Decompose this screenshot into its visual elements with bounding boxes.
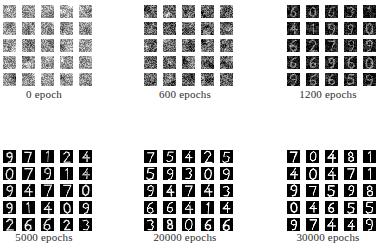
sample-canvas [22, 167, 35, 180]
sample-image [41, 218, 54, 231]
sample-canvas [287, 5, 300, 18]
sample-canvas [22, 218, 35, 231]
panel-caption-30000-epochs: 30000 epochs [268, 231, 384, 244]
sample-image [344, 73, 357, 86]
sample-image [287, 22, 300, 35]
sample-canvas [3, 5, 16, 18]
sample-image [287, 39, 300, 52]
sample-canvas [182, 150, 195, 163]
sample-canvas [41, 218, 54, 231]
sample-canvas [144, 167, 157, 180]
sample-canvas [306, 218, 319, 231]
sample-image [79, 201, 92, 214]
sample-image [144, 184, 157, 197]
sample-canvas [220, 5, 233, 18]
sample-canvas [60, 39, 73, 52]
sample-canvas [201, 73, 214, 86]
sample-canvas [201, 56, 214, 69]
sample-canvas [306, 184, 319, 197]
sample-canvas [182, 218, 195, 231]
sample-canvas [22, 184, 35, 197]
sample-image [79, 39, 92, 52]
sample-canvas [325, 167, 338, 180]
sample-canvas [325, 39, 338, 52]
sample-image [60, 201, 73, 214]
sample-canvas [344, 5, 357, 18]
sample-canvas [220, 218, 233, 231]
sample-canvas [182, 73, 195, 86]
sample-panel-0-epoch [3, 5, 92, 86]
sample-canvas [60, 56, 73, 69]
sample-image [306, 56, 319, 69]
sample-canvas [220, 184, 233, 197]
sample-canvas [144, 201, 157, 214]
sample-image [344, 184, 357, 197]
sample-canvas [41, 22, 54, 35]
sample-image [144, 167, 157, 180]
sample-canvas [325, 56, 338, 69]
sample-image [41, 39, 54, 52]
sample-image [22, 201, 35, 214]
sample-canvas [287, 150, 300, 163]
sample-canvas [287, 167, 300, 180]
sample-image [344, 22, 357, 35]
sample-image [344, 150, 357, 163]
sample-image [287, 218, 300, 231]
sample-canvas [163, 5, 176, 18]
sample-image [287, 184, 300, 197]
sample-image [60, 56, 73, 69]
sample-image [22, 167, 35, 180]
sample-canvas [363, 39, 376, 52]
sample-image [201, 39, 214, 52]
sample-image [287, 201, 300, 214]
sample-image [344, 5, 357, 18]
sample-image [60, 73, 73, 86]
sample-canvas [79, 73, 92, 86]
sample-canvas [22, 5, 35, 18]
sample-image [60, 184, 73, 197]
sample-canvas [144, 5, 157, 18]
sample-canvas [41, 201, 54, 214]
sample-panel-600-epochs [144, 5, 233, 86]
sample-image [60, 5, 73, 18]
sample-image [79, 184, 92, 197]
sample-canvas [287, 56, 300, 69]
sample-canvas [344, 167, 357, 180]
sample-canvas [3, 167, 16, 180]
sample-canvas [41, 56, 54, 69]
sample-canvas [3, 39, 16, 52]
sample-image [163, 150, 176, 163]
sample-image [201, 56, 214, 69]
sample-canvas [182, 167, 195, 180]
sample-canvas [363, 201, 376, 214]
sample-canvas [201, 22, 214, 35]
sample-image [220, 22, 233, 35]
sample-canvas [201, 184, 214, 197]
sample-image [201, 5, 214, 18]
sample-canvas [60, 73, 73, 86]
sample-image [22, 56, 35, 69]
sample-image [144, 150, 157, 163]
sample-image [220, 56, 233, 69]
sample-grid [144, 150, 233, 231]
sample-image [3, 39, 16, 52]
panel-caption-600-epochs: 600 epochs [125, 88, 245, 101]
sample-image [344, 201, 357, 214]
sample-image [144, 218, 157, 231]
sample-canvas [344, 73, 357, 86]
sample-image [363, 218, 376, 231]
sample-image [22, 184, 35, 197]
sample-canvas [3, 201, 16, 214]
sample-canvas [344, 56, 357, 69]
sample-canvas [60, 5, 73, 18]
sample-image [22, 150, 35, 163]
sample-canvas [163, 73, 176, 86]
sample-image [306, 39, 319, 52]
sample-image [60, 39, 73, 52]
sample-grid [287, 5, 376, 86]
sample-image [144, 22, 157, 35]
sample-image [220, 150, 233, 163]
sample-canvas [220, 201, 233, 214]
sample-image [163, 56, 176, 69]
sample-canvas [3, 150, 16, 163]
